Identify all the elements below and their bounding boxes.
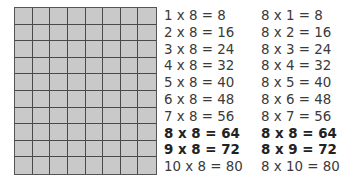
grid-cell (33, 41, 51, 58)
grid-cell (68, 141, 86, 158)
grid-cell (138, 25, 156, 42)
fact-line: 3 x 8 = 24 (164, 42, 243, 59)
grid-cell (68, 41, 86, 58)
grid-cell (86, 157, 104, 174)
grid-cell (121, 141, 139, 158)
grid-cell (50, 124, 68, 141)
grid-cell (68, 157, 86, 174)
grid-cell (86, 124, 104, 141)
grid-cell (33, 157, 51, 174)
grid-cell (33, 108, 51, 125)
grid-cell (68, 124, 86, 141)
grid-cell (50, 141, 68, 158)
fact-line: 8 x 9 = 72 (261, 142, 340, 159)
grid-cell (15, 58, 33, 75)
grid-cell (50, 108, 68, 125)
grid-cell (138, 108, 156, 125)
grid-cell (86, 25, 104, 42)
grid-cell (103, 41, 121, 58)
fact-line: 4 x 8 = 32 (164, 58, 243, 75)
grid-cell (121, 157, 139, 174)
grid-cell (68, 91, 86, 108)
facts-column-right: 8 x 1 = 88 x 2 = 168 x 3 = 248 x 4 = 328… (261, 8, 340, 176)
grid-cell (33, 25, 51, 42)
multiplication-grid (14, 7, 157, 175)
grid-cell (86, 41, 104, 58)
grid-cell (50, 41, 68, 58)
fact-line: 9 x 8 = 72 (164, 142, 243, 159)
grid-cell (15, 124, 33, 141)
grid-cell (15, 141, 33, 158)
grid-cell (86, 108, 104, 125)
grid-cell (103, 157, 121, 174)
grid-cell (15, 41, 33, 58)
grid-cell (15, 74, 33, 91)
grid-cell (68, 8, 86, 25)
grid-cell (33, 8, 51, 25)
grid-cell (138, 58, 156, 75)
grid-cell (86, 141, 104, 158)
grid-cell (15, 157, 33, 174)
grid-cell (50, 58, 68, 75)
fact-line: 10 x 8 = 80 (164, 159, 243, 176)
grid-cell (103, 108, 121, 125)
fact-line: 8 x 2 = 16 (261, 25, 340, 42)
fact-line: 7 x 8 = 56 (164, 109, 243, 126)
grid-cell (103, 124, 121, 141)
grid-cell (68, 108, 86, 125)
fact-line: 2 x 8 = 16 (164, 25, 243, 42)
grid-cell (68, 58, 86, 75)
grid-cell (103, 74, 121, 91)
grid-cell (121, 41, 139, 58)
grid-cell (103, 91, 121, 108)
grid-cell (138, 124, 156, 141)
fact-line: 8 x 6 = 48 (261, 92, 340, 109)
grid-cell (138, 74, 156, 91)
fact-line: 8 x 8 = 64 (164, 126, 243, 143)
grid-cell (138, 8, 156, 25)
grid-cell (103, 141, 121, 158)
grid-cell (138, 91, 156, 108)
fact-line: 1 x 8 = 8 (164, 8, 243, 25)
grid-cell (138, 141, 156, 158)
grid-cell (103, 8, 121, 25)
grid-cell (50, 74, 68, 91)
grid-cell (50, 25, 68, 42)
grid-cell (86, 8, 104, 25)
facts-column-left: 1 x 8 = 82 x 8 = 163 x 8 = 244 x 8 = 325… (164, 8, 243, 176)
grid-cell (138, 157, 156, 174)
grid-cell (86, 58, 104, 75)
grid-cell (121, 108, 139, 125)
fact-line: 8 x 1 = 8 (261, 8, 340, 25)
grid-cell (33, 58, 51, 75)
grid-cell (50, 157, 68, 174)
grid-cell (33, 124, 51, 141)
grid-cell (50, 8, 68, 25)
grid-cell (15, 91, 33, 108)
fact-line: 6 x 8 = 48 (164, 92, 243, 109)
fact-line: 5 x 8 = 40 (164, 75, 243, 92)
grid-cell (15, 108, 33, 125)
fact-line: 8 x 10 = 80 (261, 159, 340, 176)
grid-cell (121, 91, 139, 108)
grid-cell (121, 25, 139, 42)
grid-cell (68, 74, 86, 91)
fact-line: 8 x 7 = 56 (261, 109, 340, 126)
grid-cell (103, 25, 121, 42)
grid-cell (33, 141, 51, 158)
fact-line: 8 x 3 = 24 (261, 42, 340, 59)
grid-cell (86, 91, 104, 108)
fact-line: 8 x 5 = 40 (261, 75, 340, 92)
grid-cell (15, 8, 33, 25)
grid-cell (68, 25, 86, 42)
grid-cell (138, 41, 156, 58)
grid-cell (86, 74, 104, 91)
fact-line: 8 x 4 = 32 (261, 58, 340, 75)
grid-cell (50, 91, 68, 108)
grid-cell (121, 74, 139, 91)
grid-cell (121, 58, 139, 75)
grid-cell (121, 124, 139, 141)
fact-line: 8 x 8 = 64 (261, 126, 340, 143)
grid-cell (121, 8, 139, 25)
grid-cell (33, 91, 51, 108)
